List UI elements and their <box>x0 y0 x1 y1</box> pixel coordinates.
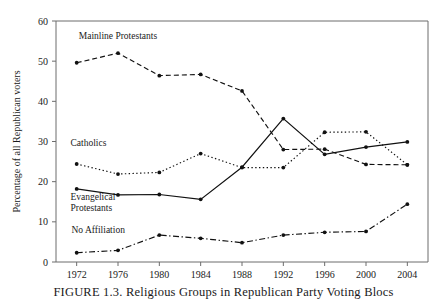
religious-groups-line-chart: Percentage of all Republican voters 0102… <box>0 0 447 307</box>
data-point-marker <box>405 202 409 206</box>
y-tick-label: 20 <box>38 176 48 187</box>
data-point-marker <box>199 197 203 201</box>
x-tick-label: 1996 <box>315 269 335 280</box>
data-point-marker <box>364 145 368 149</box>
x-tick-label: 1984 <box>191 269 211 280</box>
data-point-marker <box>116 248 120 252</box>
data-point-marker <box>199 73 203 77</box>
series-label-catholics: Catholics <box>70 138 106 148</box>
series-lines <box>75 51 409 254</box>
series-label-no-affiliation: No Affiliation <box>72 225 126 235</box>
series-label-evangelical-protestants: EvangelicalProtestants <box>70 192 115 213</box>
x-tick-label: 2004 <box>397 269 417 280</box>
data-point-marker <box>323 230 327 234</box>
y-tick-label: 10 <box>38 216 48 227</box>
y-tick-label: 40 <box>38 96 48 107</box>
data-point-marker <box>281 233 285 237</box>
data-point-marker <box>116 51 120 55</box>
x-tick-label: 1976 <box>108 269 128 280</box>
data-point-marker <box>240 241 244 245</box>
data-point-marker <box>364 230 368 234</box>
data-point-marker <box>364 162 368 166</box>
data-point-marker <box>240 165 244 169</box>
series-label-mainline-protestants: Mainline Protestants <box>79 31 158 41</box>
data-point-marker <box>405 140 409 144</box>
data-point-marker <box>157 233 161 237</box>
data-point-marker <box>116 172 120 176</box>
data-point-marker <box>199 152 203 156</box>
y-axis-title: Percentage of all Republican voters <box>11 70 22 212</box>
y-axis-ticks: 0102030405060 <box>38 16 56 268</box>
data-point-marker <box>75 162 79 166</box>
figure-caption: FIGURE 1.3. Religious Groups in Republic… <box>53 285 393 299</box>
data-point-marker <box>281 148 285 152</box>
x-tick-label: 1980 <box>149 269 169 280</box>
data-point-marker <box>116 193 120 197</box>
data-point-marker <box>323 147 327 151</box>
data-point-marker <box>323 152 327 156</box>
x-tick-label: 1972 <box>67 269 87 280</box>
y-tick-label: 60 <box>38 16 48 27</box>
data-point-marker <box>364 130 368 134</box>
y-tick-label: 30 <box>38 136 48 147</box>
figure-container: Percentage of all Republican voters 0102… <box>0 0 447 307</box>
series-line <box>77 119 408 200</box>
x-tick-label: 2000 <box>356 269 376 280</box>
data-point-marker <box>75 61 79 65</box>
data-point-marker <box>405 163 409 167</box>
data-point-marker <box>240 89 244 93</box>
data-point-marker <box>75 251 79 255</box>
x-tick-label: 1992 <box>273 269 293 280</box>
data-point-marker <box>281 117 285 121</box>
data-point-marker <box>157 193 161 197</box>
series-inline-labels: Mainline ProtestantsCatholicsEvangelical… <box>70 31 157 235</box>
data-point-marker <box>199 236 203 240</box>
data-point-marker <box>75 187 79 191</box>
y-tick-label: 0 <box>43 257 48 268</box>
x-axis-ticks: 197219761980198419881992199620002004 <box>67 262 418 280</box>
y-tick-label: 50 <box>38 56 48 67</box>
x-tick-label: 1988 <box>232 269 252 280</box>
series-line <box>77 204 408 253</box>
data-point-marker <box>157 171 161 175</box>
data-point-marker <box>157 74 161 78</box>
y-axis-title-text: Percentage of all Republican voters <box>11 70 22 212</box>
data-point-marker <box>323 130 327 134</box>
data-point-marker <box>281 166 285 170</box>
